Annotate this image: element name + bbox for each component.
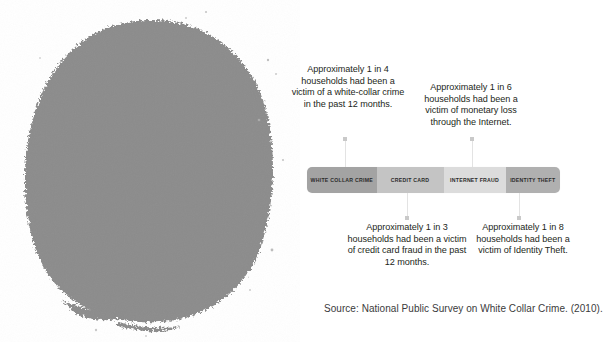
callout-identity-theft: Approximately 1 in 8 households had been… xyxy=(465,222,581,257)
connector-dot-internet-fraud xyxy=(470,137,474,141)
connector-dot-identity-theft xyxy=(517,216,521,220)
bar-segment-white-collar-crime[interactable]: WHITE COLLAR CRIME xyxy=(307,167,377,193)
connector-dot-credit-card-fraud xyxy=(405,216,409,220)
gray-ink-blot-circle xyxy=(0,0,300,342)
connector-dot-white-collar-crime xyxy=(343,137,347,141)
bar-segment-label: CREDIT CARD xyxy=(391,177,430,184)
callout-internet-fraud: Approximately 1 in 6 households had been… xyxy=(413,82,529,128)
bar-segment-label: WHITE COLLAR CRIME xyxy=(311,177,373,184)
callout-white-collar-crime: Approximately 1 in 4 households had been… xyxy=(290,64,406,110)
connector-line-credit-card-fraud xyxy=(407,193,408,218)
figure-canvas: Approximately 1 in 4 households had been… xyxy=(0,0,606,342)
bar-segment-label: INTERNET FRAUD xyxy=(450,177,499,184)
connector-line-white-collar-crime xyxy=(345,141,346,167)
source-citation: Source: National Public Survey on White … xyxy=(324,303,603,314)
connector-line-identity-theft xyxy=(519,193,520,218)
white-collar-crime-segmented-bar: WHITE COLLAR CRIME CREDIT CARD INTERNET … xyxy=(307,167,560,193)
bar-segment-internet-fraud[interactable]: INTERNET FRAUD xyxy=(444,167,506,193)
callout-credit-card-fraud: Approximately 1 in 3 households had been… xyxy=(347,222,467,268)
infographic-panel: Approximately 1 in 4 households had been… xyxy=(288,0,606,342)
bar-segment-label: IDENTITY THEFT xyxy=(510,177,555,184)
bar-segment-identity-theft[interactable]: IDENTITY THEFT xyxy=(506,167,560,193)
connector-line-internet-fraud xyxy=(472,141,473,167)
bar-segment-credit-card[interactable]: CREDIT CARD xyxy=(377,167,444,193)
